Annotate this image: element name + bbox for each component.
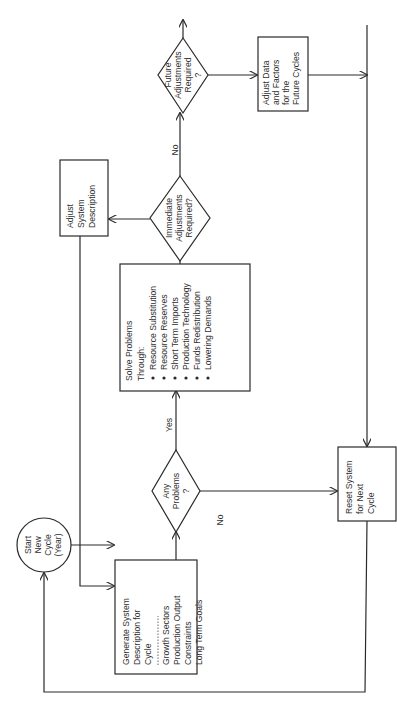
future-adjustments-node: Future Adjustments Required ? xyxy=(158,38,208,113)
future-line-2: Adjustments xyxy=(173,51,183,98)
solve-bullet-5: Funds Redistribution xyxy=(192,291,202,370)
solve-node: Solve Problems Through: Resource Substit… xyxy=(120,264,250,391)
generate-title-1: Generate System xyxy=(121,598,131,665)
immediate-line-2: Adjustments xyxy=(174,194,184,241)
generate-title-2: Description for xyxy=(132,609,142,665)
solve-bullet-1: Resource Substitution xyxy=(148,286,158,370)
future-line-1: Future xyxy=(163,62,173,87)
adjust-data-line-4: Future Cycles xyxy=(291,52,301,105)
adjust-system-node: Adjust System Description xyxy=(60,160,108,236)
adjust-system-line-2: System xyxy=(76,199,86,228)
label-no-problems: No xyxy=(215,514,225,525)
start-line-2: New xyxy=(33,536,43,554)
immediate-line-1: Immediate xyxy=(164,198,174,238)
any-problems-node: Any Problems ? xyxy=(152,450,200,532)
start-line-1: Start xyxy=(23,535,33,554)
generate-item-3: Constraints xyxy=(183,622,193,665)
generate-node: Generate System Description for Cycle Gr… xyxy=(115,560,204,674)
arrow-reset-to-start xyxy=(44,521,367,692)
generate-item-4: Long Term Goals xyxy=(194,600,204,665)
label-yes: Yes xyxy=(164,418,174,432)
adjust-system-line-3: Description xyxy=(87,185,97,228)
adjust-data-line-1: Adjust Data xyxy=(261,60,271,105)
flowchart-canvas: Start New Cycle (Year) Generate System D… xyxy=(0,0,397,708)
solve-title-2: Through: xyxy=(136,347,146,381)
solve-bullet-3: Short Term Imports xyxy=(170,297,180,370)
adjust-data-line-2: and Factors xyxy=(271,60,281,105)
reset-line-3: Cycle xyxy=(366,492,376,514)
label-no-immediate: No xyxy=(170,144,180,155)
start-line-4: (Year) xyxy=(53,533,63,556)
start-line-3: Cycle xyxy=(43,534,53,556)
any-problems-line-3: ? xyxy=(181,488,191,493)
arrow-adjust-system-to-generate xyxy=(80,236,114,586)
generate-item-1: Growth Sectors xyxy=(161,606,171,665)
reset-line-2: for Next xyxy=(355,483,365,514)
solve-bullet-2: Resource Reserves xyxy=(159,295,169,370)
immediate-line-3: Required? xyxy=(184,198,194,238)
solve-bullet-6: Lowering Demands xyxy=(203,296,213,370)
future-line-3: Required xyxy=(183,57,193,92)
generate-item-2: Production Output xyxy=(172,595,182,665)
adjust-data-node: Adjust Data and Factors for the Future C… xyxy=(258,37,308,111)
future-line-4: ? xyxy=(193,72,203,77)
immediate-adjustments-node: Immediate Adjustments Required? xyxy=(150,176,210,261)
solve-bullet-4: Production Technology xyxy=(181,283,191,370)
reset-line-1: Reset System xyxy=(344,461,354,515)
solve-title-1: Solve Problems xyxy=(124,321,134,381)
adjust-data-line-3: for the xyxy=(281,80,291,105)
generate-title-3: Cycle xyxy=(143,643,153,665)
adjust-system-line-1: Adjust xyxy=(65,204,75,228)
any-problems-line-2: Problems xyxy=(171,473,181,509)
start-node: Start New Cycle (Year) xyxy=(17,518,71,572)
reset-node: Reset System for Next Cycle xyxy=(338,447,396,521)
any-problems-line-1: Any xyxy=(161,483,171,499)
